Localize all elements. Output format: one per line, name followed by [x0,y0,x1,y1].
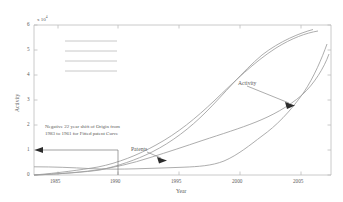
curve-patents-fitted [34,54,329,175]
activity-leader [247,86,289,103]
y-tick-label-1: 1 [27,146,30,152]
y-axis-title: Activity [14,94,20,112]
chart-svg [0,0,343,202]
activity-curve-label: Activity [238,80,256,86]
activity-arrowhead-icon [285,102,295,109]
x-tick-marks [58,25,301,175]
curve-activity-fitted [34,31,318,175]
patents-curve-label: Patents [131,146,147,152]
legend-sample-lines[interactable] [65,41,117,71]
x-tick-label-1995: 1995 [171,178,181,184]
origin-shift-leader [42,150,118,175]
y-tick-label-3: 3 [27,96,30,102]
origin-shift-note-line2: 1983 to 1961 for Fitted patent Curve [45,131,118,137]
y-tick-label-5: 5 [27,46,30,52]
x-tick-label-1990: 1990 [110,178,120,184]
exponent-base: x 10 [37,17,46,22]
y-tick-marks [34,25,331,175]
figure-canvas: x 104 0 1 2 3 4 5 6 1985 1990 1995 2000 … [0,0,343,202]
y-tick-label-6: 6 [27,21,30,27]
y-tick-label-4: 4 [27,71,30,77]
origin-shift-arrowhead-icon [35,147,44,153]
y-axis-exponent-label: x 104 [37,15,48,22]
patents-arrowhead-icon [157,157,167,164]
axis-frame [34,25,331,175]
y-tick-label-2: 2 [27,121,30,127]
origin-shift-note-line1: Negative 22 year shift of Origin from [45,124,120,130]
x-tick-label-2005: 2005 [293,178,303,184]
x-axis-title: Year [176,188,186,194]
y-tick-label-0: 0 [27,171,30,177]
exponent-power: 4 [46,15,48,19]
activity-leader-line [247,86,289,103]
curve-patents-observed [34,44,327,169]
x-tick-label-1985: 1985 [50,178,60,184]
x-tick-label-2000: 2000 [232,178,242,184]
